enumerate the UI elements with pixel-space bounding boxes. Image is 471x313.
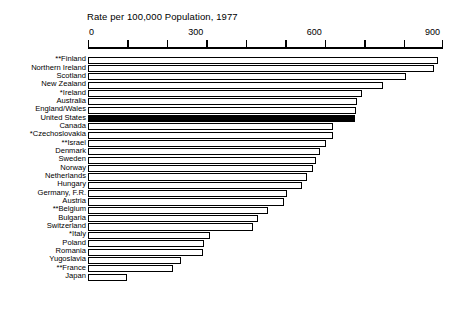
bar-row: Norway <box>88 164 471 172</box>
bar-row: *Ireland <box>88 89 471 97</box>
bar-row: Yugoslavia <box>88 256 471 264</box>
bar-row: Germany, F.R. <box>88 190 471 198</box>
bar <box>88 73 406 80</box>
bar <box>88 173 307 180</box>
bar <box>88 207 268 214</box>
bar <box>88 232 210 239</box>
bar <box>88 198 284 205</box>
bar-row: **France <box>88 265 471 273</box>
bar <box>88 115 355 122</box>
bar <box>88 98 357 105</box>
x-axis-tick <box>88 40 89 47</box>
bar <box>88 240 204 247</box>
bar <box>88 257 181 264</box>
bar-row: Romania <box>88 248 471 256</box>
bar <box>88 182 302 189</box>
x-axis-tick <box>364 40 365 47</box>
bar-row: Austria <box>88 198 471 206</box>
x-axis-tick <box>404 40 405 47</box>
bar-row: *Czechoslovakia <box>88 131 471 139</box>
bar-row: Scotland <box>88 73 471 81</box>
x-axis-tick-label: 900 <box>425 27 440 37</box>
bar-row: New Zealand <box>88 81 471 89</box>
bar <box>88 157 316 164</box>
x-axis-tick-label: 600 <box>307 27 322 37</box>
bar-row: United States <box>88 114 471 122</box>
bar-row: Netherlands <box>88 173 471 181</box>
x-axis-tick <box>206 40 207 47</box>
bar-row: *Italy <box>88 231 471 239</box>
x-axis-tick-label: 300 <box>188 27 203 37</box>
x-axis-tick <box>285 40 286 47</box>
bar <box>88 249 203 256</box>
x-axis-tick <box>246 40 247 47</box>
bar-row: Poland <box>88 240 471 248</box>
x-axis-tick <box>325 40 326 47</box>
bars-plot-area: **FinlandNorthern IrelandScotlandNew Zea… <box>88 56 471 308</box>
bar <box>88 165 313 172</box>
x-axis-tick <box>167 40 168 47</box>
bar-row: Bulgaria <box>88 215 471 223</box>
bar-row: **Israel <box>88 139 471 147</box>
bar-row: Canada <box>88 123 471 131</box>
bar-row: Denmark <box>88 148 471 156</box>
bar <box>88 190 287 197</box>
bar <box>88 65 434 72</box>
bar <box>88 265 173 272</box>
bar <box>88 82 383 89</box>
bar-row: England/Wales <box>88 106 471 114</box>
bar <box>88 107 356 114</box>
bar-row: Japan <box>88 273 471 281</box>
bar-row: **Belgium <box>88 206 471 214</box>
bar <box>88 140 326 147</box>
bar-row: Switzerland <box>88 223 471 231</box>
bar <box>88 148 320 155</box>
bar-row: Australia <box>88 98 471 106</box>
bar <box>88 57 438 64</box>
chart-container: Rate per 100,000 Population, 1977 030060… <box>0 0 471 313</box>
bar-row: **Finland <box>88 56 471 64</box>
bar-row: Sweden <box>88 156 471 164</box>
bar <box>88 223 253 230</box>
bar <box>88 123 333 130</box>
x-axis-tick <box>442 40 443 47</box>
x-axis-tick-label: 0 <box>89 27 94 37</box>
bar <box>88 132 333 139</box>
bar-row: Hungary <box>88 181 471 189</box>
bar <box>88 90 362 97</box>
bar-row: Northern Ireland <box>88 64 471 72</box>
bar <box>88 215 258 222</box>
bar <box>88 274 127 281</box>
x-axis-tick <box>127 40 128 47</box>
axis-line <box>88 47 443 49</box>
bar-category-label: Japan <box>0 272 86 280</box>
